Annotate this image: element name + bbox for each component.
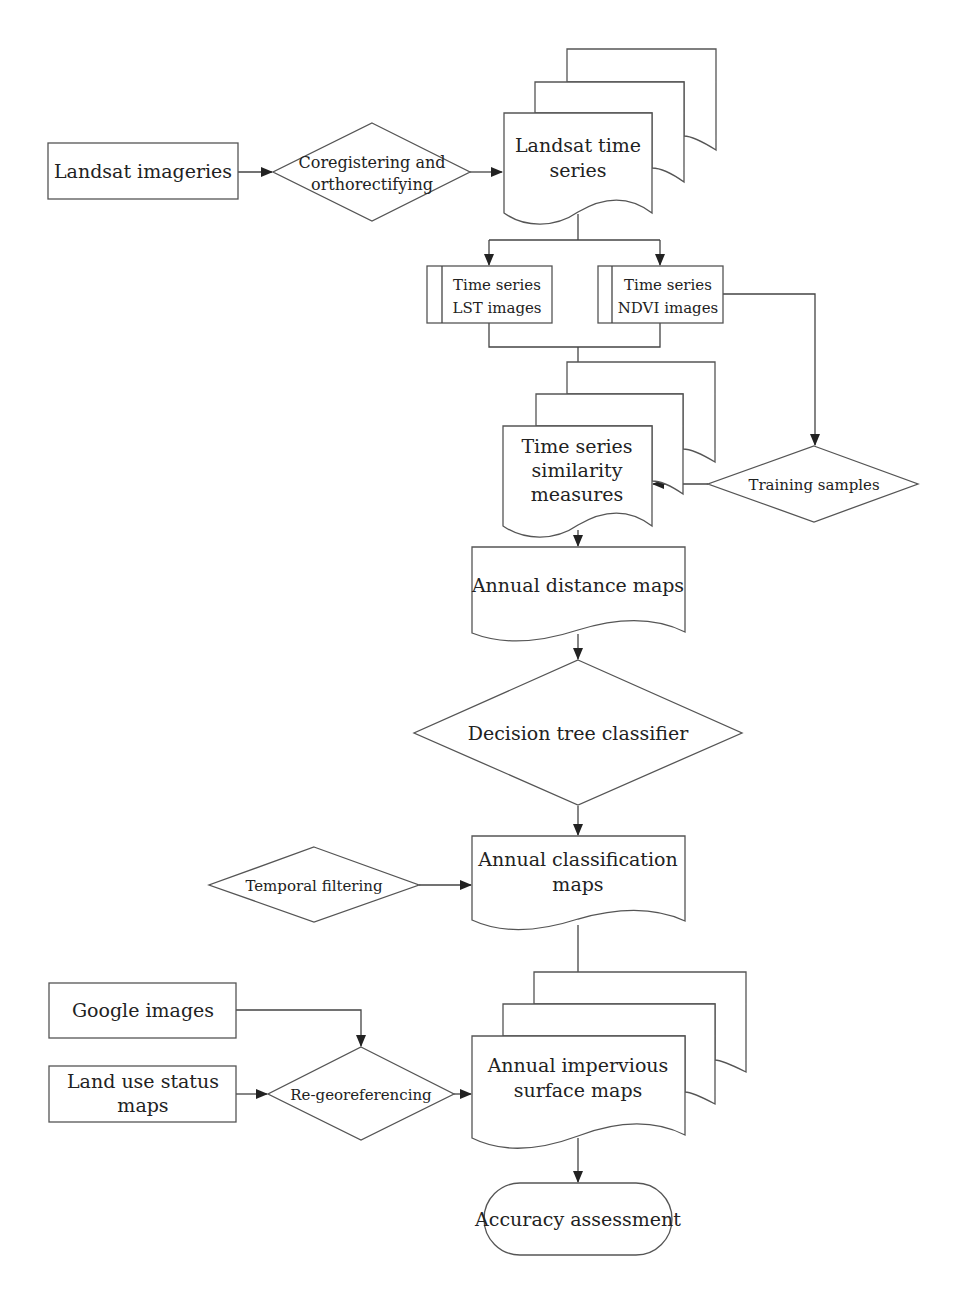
node-label-line-1: Land use status bbox=[67, 1070, 219, 1092]
node-label: Decision tree classifier bbox=[468, 722, 690, 744]
node-accuracy-assessment[interactable]: Accuracy assessment bbox=[474, 1183, 681, 1255]
node-label-line-2: NDVI images bbox=[618, 299, 719, 317]
node-training-samples[interactable]: Training samples bbox=[708, 446, 918, 522]
node-label-line-3: measures bbox=[531, 483, 624, 505]
node-ndvi-images[interactable]: Time series NDVI images bbox=[598, 266, 723, 323]
node-label-line-1: Time series bbox=[453, 276, 541, 294]
node-landsat-imageries[interactable]: Landsat imageries bbox=[48, 143, 238, 199]
node-label-line-2: LST images bbox=[452, 299, 541, 317]
node-label-line-1: Annual classification bbox=[477, 848, 678, 870]
node-label: Landsat imageries bbox=[54, 160, 232, 182]
node-annual-classification-maps[interactable]: Annual classification maps bbox=[472, 836, 685, 930]
node-label: Training samples bbox=[748, 476, 879, 494]
node-google-images[interactable]: Google images bbox=[49, 983, 236, 1038]
node-land-use-status-maps[interactable]: Land use status maps bbox=[49, 1066, 236, 1122]
flowchart-canvas: Landsat imageries Coregistering and orth… bbox=[0, 0, 962, 1290]
node-label-line-2: surface maps bbox=[514, 1079, 643, 1101]
node-label-line-1: Landsat time bbox=[515, 134, 641, 156]
node-label-line-2: similarity bbox=[532, 459, 623, 481]
node-impervious-surface-maps[interactable]: Annual impervious surface maps bbox=[472, 972, 746, 1148]
node-label-line-2: series bbox=[549, 159, 606, 181]
edge-ndvi-to-training bbox=[723, 294, 815, 445]
node-label: Accuracy assessment bbox=[474, 1208, 681, 1230]
node-label: Annual distance maps bbox=[471, 574, 684, 596]
decision-diamond bbox=[273, 123, 470, 221]
edge-lst-ndvi-join bbox=[489, 323, 660, 347]
node-label-line-1: Time series bbox=[521, 435, 632, 457]
node-temporal-filtering[interactable]: Temporal filtering bbox=[209, 847, 419, 922]
node-decision-tree-classifier[interactable]: Decision tree classifier bbox=[414, 660, 742, 805]
edge-google-to-regeoref bbox=[236, 1010, 361, 1046]
node-label-line-2: maps bbox=[117, 1094, 168, 1116]
node-annual-distance-maps[interactable]: Annual distance maps bbox=[471, 547, 685, 641]
node-label: Re-georeferencing bbox=[290, 1086, 432, 1104]
node-label-line-1: Annual impervious bbox=[487, 1054, 669, 1076]
node-label-line-1: Coregistering and bbox=[299, 153, 446, 172]
node-label: Temporal filtering bbox=[245, 877, 383, 895]
node-re-georeferencing[interactable]: Re-georeferencing bbox=[268, 1047, 454, 1140]
node-similarity-measures[interactable]: Time series similarity measures bbox=[503, 362, 715, 537]
node-label-line-2: orthorectifying bbox=[311, 175, 433, 194]
node-coregistering[interactable]: Coregistering and orthorectifying bbox=[273, 123, 470, 221]
node-label-line-1: Time series bbox=[624, 276, 712, 294]
node-landsat-time-series[interactable]: Landsat time series bbox=[504, 49, 716, 224]
node-label-line-2: maps bbox=[552, 873, 603, 895]
node-lst-images[interactable]: Time series LST images bbox=[427, 266, 552, 323]
node-label: Google images bbox=[72, 999, 214, 1021]
